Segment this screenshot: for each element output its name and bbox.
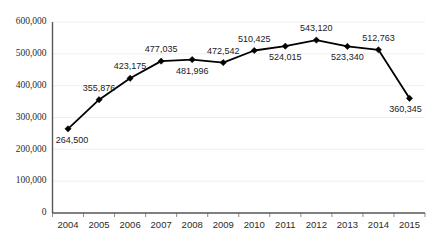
x-axis-tick-labels: 2004200520062007200820092010201120122013… bbox=[57, 219, 420, 230]
data-point-label: 264,500 bbox=[56, 135, 89, 145]
data-point-marker bbox=[313, 37, 319, 43]
y-axis-tick-label: 500,000 bbox=[16, 48, 47, 58]
data-point-marker bbox=[189, 56, 195, 62]
data-point-label: 481,996 bbox=[176, 66, 209, 76]
x-axis-tick-label: 2005 bbox=[88, 219, 109, 230]
y-axis-tick-labels: 0100,000200,000300,000400,000500,000600,… bbox=[16, 16, 47, 217]
x-axis-tick-label: 2013 bbox=[337, 219, 358, 230]
data-point-label: 423,175 bbox=[114, 61, 147, 71]
x-axis-tick-label: 2011 bbox=[275, 219, 295, 230]
x-axis-tick-label: 2008 bbox=[182, 219, 203, 230]
x-axis-tick-label: 2006 bbox=[120, 219, 141, 230]
y-axis-tick-label: 400,000 bbox=[16, 80, 47, 90]
data-point-marker bbox=[344, 43, 350, 49]
data-point-label: 472,542 bbox=[207, 46, 240, 56]
data-point-label: 355,876 bbox=[83, 83, 116, 93]
data-point-marker bbox=[282, 43, 288, 49]
x-axis-tick-label: 2014 bbox=[368, 219, 389, 230]
y-axis-tick-label: 300,000 bbox=[16, 112, 47, 122]
data-point-label: 360,345 bbox=[389, 104, 422, 114]
data-point-label: 524,015 bbox=[269, 52, 302, 62]
line-chart: 0100,000200,000300,000400,000500,000600,… bbox=[0, 0, 431, 250]
x-axis-tick-label: 2012 bbox=[306, 219, 327, 230]
x-axis-tick-label: 2015 bbox=[399, 219, 420, 230]
x-axis-tick-label: 2010 bbox=[244, 219, 265, 230]
y-axis-tick-label: 600,000 bbox=[16, 16, 47, 26]
data-point-marker bbox=[251, 47, 257, 53]
chart-canvas: 0100,000200,000300,000400,000500,000600,… bbox=[0, 0, 431, 250]
y-axis-tick-label: 200,000 bbox=[16, 144, 47, 154]
x-axis-tick-label: 2009 bbox=[213, 219, 234, 230]
y-axis-tick-label: 100,000 bbox=[16, 175, 47, 185]
data-point-labels: 264,500355,876423,175477,035481,996472,5… bbox=[56, 23, 422, 145]
data-point-marker bbox=[220, 59, 226, 65]
x-axis-tick-label: 2007 bbox=[151, 219, 172, 230]
y-axis-tick-label: 0 bbox=[42, 207, 47, 217]
data-point-label: 477,035 bbox=[145, 44, 178, 54]
data-point-label: 510,425 bbox=[238, 34, 271, 44]
x-axis-tick-label: 2004 bbox=[57, 219, 78, 230]
data-point-label: 523,340 bbox=[331, 52, 364, 62]
data-point-label: 543,120 bbox=[300, 23, 333, 33]
data-point-label: 512,763 bbox=[362, 33, 395, 43]
